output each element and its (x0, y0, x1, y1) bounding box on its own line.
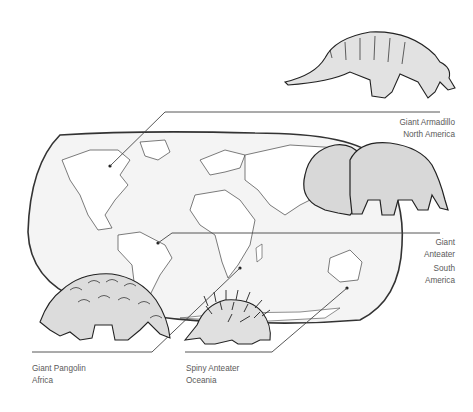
species-name: Giant Armadillo (399, 117, 455, 129)
giant-armadillo-illustration (285, 32, 455, 98)
species-name-line1: Giant (424, 237, 455, 249)
callout-anteater: Giant Anteater South America (424, 237, 455, 287)
region-name-line2: America (424, 275, 455, 287)
callout-pangolin: Giant Pangolin Africa (32, 363, 86, 387)
region-name: Oceania (186, 375, 239, 387)
species-name: Giant Pangolin (32, 363, 86, 375)
region-name: North America (399, 129, 455, 141)
region-name-line1: South (424, 263, 455, 275)
callout-armadillo: Giant Armadillo North America (399, 117, 455, 141)
species-name: Spiny Anteater (186, 363, 239, 375)
region-name: Africa (32, 375, 86, 387)
world-map-illustration (0, 0, 473, 412)
species-name-line2: Anteater (424, 249, 455, 261)
callout-echidna: Spiny Anteater Oceania (186, 363, 239, 387)
